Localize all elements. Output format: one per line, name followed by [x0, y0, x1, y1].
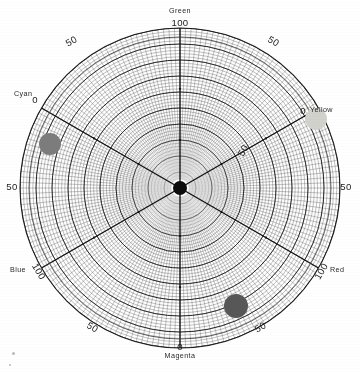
- data-point-sample-magenta[interactable]: [224, 294, 248, 318]
- axis-tick-mark: [93, 237, 95, 239]
- axis-label-yellow: Yellow: [310, 105, 333, 114]
- tick-magenta-0: 0: [177, 341, 183, 352]
- data-point-sample-cyan[interactable]: [39, 133, 61, 155]
- data-point-origin-point[interactable]: [173, 181, 187, 195]
- axis-tick-mark: [179, 286, 181, 288]
- axis-tick-mark: [265, 237, 267, 239]
- axis-tick-mark: [179, 139, 181, 141]
- polar-color-chart: Green Yellow Red Magenta Blue Cyan 100 0…: [0, 0, 360, 372]
- polar-chart-canvas: Green Yellow Red Magenta Blue Cyan 100 0…: [0, 0, 360, 372]
- tick-green-100: 100: [172, 17, 189, 28]
- tick-cyan-0: 0: [32, 94, 38, 105]
- axis-tick-mark: [265, 137, 267, 139]
- tick-50-right: 50: [340, 181, 351, 192]
- axis-tick-mark: [137, 163, 139, 165]
- axis-tick-mark: [93, 137, 95, 139]
- axis-label-green: Green: [169, 6, 191, 15]
- axis-tick-mark: [220, 211, 222, 213]
- axis-tick-mark: [220, 163, 222, 165]
- scan-speck: [12, 352, 15, 355]
- axis-tick-mark: [179, 235, 181, 237]
- axis-label-cyan: Cyan: [14, 89, 32, 98]
- axis-label-red: Red: [330, 265, 344, 274]
- axis-tick-mark: [137, 211, 139, 213]
- tick-yellow-0: 0: [300, 105, 306, 116]
- axis-label-blue: Blue: [10, 265, 26, 274]
- tick-50-left: 50: [6, 181, 17, 192]
- axis-tick-mark: [179, 88, 181, 90]
- axis-label-magenta: Magenta: [165, 351, 196, 360]
- scan-speck-2: [9, 364, 11, 366]
